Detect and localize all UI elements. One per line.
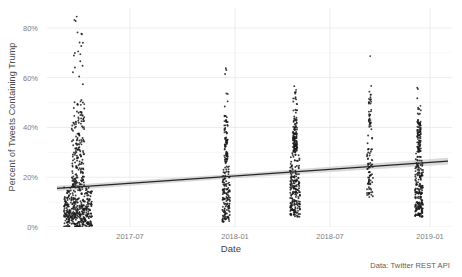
x-tick-label: 2018-01 xyxy=(205,232,265,241)
x-tick-label: 2017-07 xyxy=(100,232,160,241)
y-tick-label: 20% xyxy=(8,173,38,182)
plot-panel xyxy=(47,8,452,227)
x-axis-title: Date xyxy=(0,243,462,254)
source-caption: Data: Twitter REST API xyxy=(370,261,450,270)
y-tick-label: 0% xyxy=(8,223,38,232)
y-tick-label: 40% xyxy=(8,123,38,132)
x-tick-label: 2019-01 xyxy=(400,232,460,241)
y-tick-label: 80% xyxy=(8,24,38,33)
trend-line xyxy=(47,8,452,227)
y-tick-label: 60% xyxy=(8,74,38,83)
y-axis-title: Percent of Tweets Containing Trump xyxy=(6,2,19,232)
scatter-plot-figure: Percent of Tweets Containing Trump 0%20%… xyxy=(0,0,462,277)
x-tick-label: 2018-07 xyxy=(300,232,360,241)
